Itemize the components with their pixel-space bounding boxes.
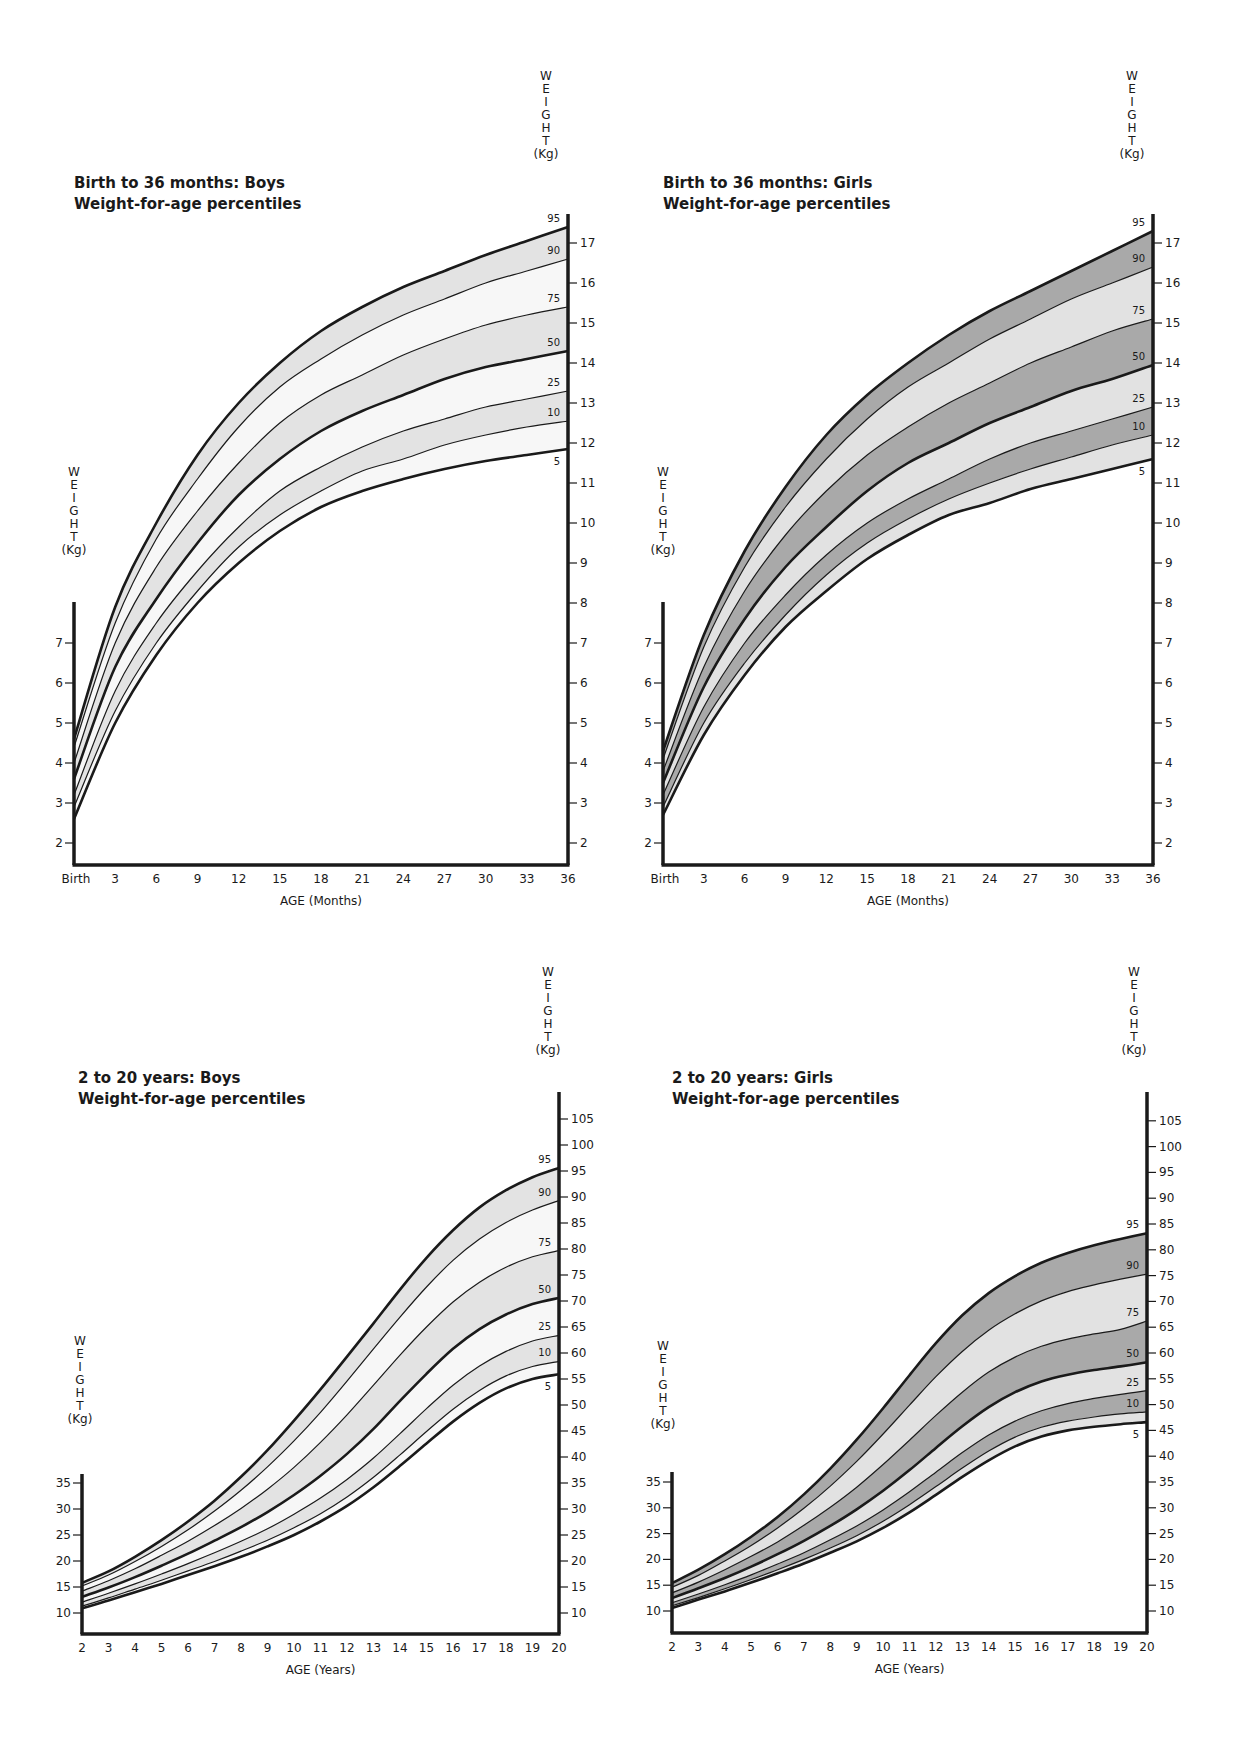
right-tick-label: 6 (580, 676, 588, 690)
svg-text:G: G (1127, 108, 1136, 122)
x-tick-label: 10 (286, 1641, 301, 1655)
x-tick-label: 30 (1064, 872, 1079, 886)
x-axis-title: AGE (Months) (280, 894, 362, 908)
right-tick-label: 10 (1159, 1604, 1174, 1618)
percentile-label-75: 75 (547, 293, 560, 304)
svg-text:H: H (658, 517, 667, 531)
right-tick-label: 70 (1159, 1294, 1174, 1308)
left-tick-label: 20 (56, 1554, 71, 1568)
x-tick-label: 3 (105, 1641, 113, 1655)
x-tick-label: 11 (902, 1640, 917, 1654)
svg-text:I: I (78, 1360, 82, 1374)
right-tick-label: 12 (1165, 436, 1180, 450)
svg-text:G: G (658, 1378, 667, 1392)
left-tick-label: 2 (55, 836, 63, 850)
right-tick-label: 75 (1159, 1269, 1174, 1283)
right-tick-label: 60 (571, 1346, 586, 1360)
x-tick-label: 14 (981, 1640, 996, 1654)
x-tick-label: 33 (1105, 872, 1120, 886)
right-tick-label: 40 (1159, 1449, 1174, 1463)
svg-text:G: G (541, 108, 550, 122)
svg-text:T: T (543, 1030, 552, 1044)
right-tick-label: 4 (580, 756, 588, 770)
x-tick-label: 18 (1087, 1640, 1102, 1654)
chart-title: 2 to 20 years: Boys (78, 1069, 241, 1087)
right-tick-label: 2 (580, 836, 588, 850)
right-tick-label: 5 (580, 716, 588, 730)
right-tick-label: 15 (580, 316, 595, 330)
chart-title: Birth to 36 months: Girls (663, 174, 872, 192)
right-tick-label: 13 (1165, 396, 1180, 410)
x-tick-label: 4 (131, 1641, 139, 1655)
right-tick-label: 25 (1159, 1527, 1174, 1541)
x-tick-label: 30 (478, 872, 493, 886)
x-tick-label: 14 (392, 1641, 407, 1655)
x-tick-label: 17 (472, 1641, 487, 1655)
x-tick-label: 5 (747, 1640, 755, 1654)
left-tick-label: 15 (56, 1580, 71, 1594)
percentile-label-25: 25 (1132, 393, 1145, 404)
svg-text:G: G (1129, 1004, 1138, 1018)
x-tick-label: 13 (955, 1640, 970, 1654)
right-tick-label: 20 (1159, 1552, 1174, 1566)
svg-text:H: H (75, 1386, 84, 1400)
chart-subtitle: Weight-for-age percentiles (663, 195, 891, 213)
right-tick-label: 90 (1159, 1191, 1174, 1205)
right-tick-label: 55 (571, 1372, 586, 1386)
chart-title: Birth to 36 months: Boys (74, 174, 285, 192)
percentile-bands (74, 227, 568, 819)
svg-text:T: T (658, 530, 667, 544)
right-tick-label: 95 (571, 1164, 586, 1178)
left-tick-label: 4 (644, 756, 652, 770)
x-tick-label: Birth (62, 872, 91, 886)
left-tick-label: 35 (646, 1475, 661, 1489)
right-y-axis-title: WEIGHT(Kg) (1120, 69, 1145, 161)
svg-text:E: E (1128, 82, 1136, 96)
growth-charts-canvas: Birth to 36 months: BoysWeight-for-age p… (0, 0, 1238, 1740)
x-tick-label: 10 (875, 1640, 890, 1654)
svg-text:E: E (70, 478, 78, 492)
x-axis-title: AGE (Years) (286, 1663, 356, 1677)
percentile-label-90: 90 (538, 1187, 551, 1198)
right-tick-label: 80 (571, 1242, 586, 1256)
svg-text:W: W (657, 1339, 669, 1353)
x-tick-label: 12 (339, 1641, 354, 1655)
x-tick-label: 4 (721, 1640, 729, 1654)
svg-text:E: E (659, 478, 667, 492)
x-tick-label: 13 (366, 1641, 381, 1655)
left-tick-label: 25 (56, 1528, 71, 1542)
svg-text:I: I (1130, 95, 1134, 109)
percentile-label-95: 95 (547, 213, 560, 224)
x-tick-label: 19 (525, 1641, 540, 1655)
svg-text:I: I (661, 1365, 665, 1379)
percentile-label-95: 95 (538, 1154, 551, 1165)
svg-text:H: H (541, 121, 550, 135)
right-y-axis-title: WEIGHT(Kg) (534, 69, 559, 161)
svg-text:I: I (546, 991, 550, 1005)
x-tick-label: 36 (560, 872, 575, 886)
percentile-label-95: 95 (1126, 1219, 1139, 1230)
percentile-label-25: 25 (538, 1321, 551, 1332)
percentile-bands (663, 231, 1153, 815)
x-tick-label: 17 (1060, 1640, 1075, 1654)
right-tick-label: 50 (571, 1398, 586, 1412)
x-tick-label: 21 (941, 872, 956, 886)
x-tick-label: 18 (313, 872, 328, 886)
x-tick-label: 16 (445, 1641, 460, 1655)
svg-text:E: E (76, 1347, 84, 1361)
svg-text:T: T (541, 134, 550, 148)
right-tick-label: 90 (571, 1190, 586, 1204)
left-y-axis-title: WEIGHT(Kg) (651, 465, 676, 557)
svg-text:W: W (540, 69, 552, 83)
left-tick-label: 20 (646, 1552, 661, 1566)
percentile-label-75: 75 (1132, 305, 1145, 316)
right-tick-label: 15 (571, 1580, 586, 1594)
right-tick-label: 45 (1159, 1423, 1174, 1437)
svg-text:G: G (543, 1004, 552, 1018)
left-tick-label: 25 (646, 1527, 661, 1541)
svg-text:G: G (658, 504, 667, 518)
chart-boys-2-to-20-years: 2 to 20 years: BoysWeight-for-age percen… (56, 965, 594, 1677)
svg-text:W: W (542, 965, 554, 979)
right-tick-label: 7 (580, 636, 588, 650)
svg-text:E: E (544, 978, 552, 992)
